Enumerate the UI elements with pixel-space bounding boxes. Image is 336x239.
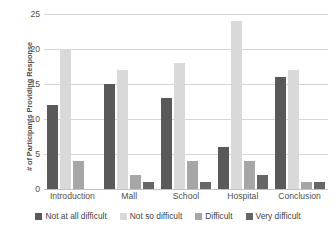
bar bbox=[104, 84, 115, 189]
bar-group bbox=[214, 14, 271, 189]
x-axis-tick-labels: IntroductionMallSchoolHospitalConclusion bbox=[44, 191, 328, 201]
bar bbox=[275, 77, 286, 189]
legend: Not at all difficultNot so difficultDiff… bbox=[0, 211, 336, 221]
y-axis-tick-label: 0 bbox=[14, 184, 40, 194]
x-axis-tick-label: Mall bbox=[101, 191, 158, 201]
x-axis-tick-label: Conclusion bbox=[271, 191, 328, 201]
gridline bbox=[44, 189, 328, 190]
y-axis-tick-label: 5 bbox=[14, 149, 40, 159]
bar-group bbox=[44, 14, 101, 189]
legend-item[interactable]: Not so difficult bbox=[120, 211, 182, 221]
bar bbox=[174, 63, 185, 189]
legend-swatch-icon bbox=[246, 213, 253, 220]
bar bbox=[161, 98, 172, 189]
bar bbox=[314, 182, 325, 189]
bar-group bbox=[101, 14, 158, 189]
bar bbox=[47, 105, 58, 189]
legend-item[interactable]: Difficult bbox=[195, 211, 232, 221]
legend-label: Very difficult bbox=[256, 211, 301, 221]
bar-chart: # of Participants Providing Response 051… bbox=[0, 0, 336, 239]
x-axis-tick-label: Introduction bbox=[44, 191, 101, 201]
bar-groups bbox=[44, 14, 328, 189]
y-axis-tick-label: 25 bbox=[14, 9, 40, 19]
legend-swatch-icon bbox=[195, 213, 202, 220]
legend-label: Difficult bbox=[205, 211, 232, 221]
bar bbox=[117, 70, 128, 189]
x-axis-tick-label: School bbox=[158, 191, 215, 201]
legend-label: Not at all difficult bbox=[45, 211, 106, 221]
bar bbox=[130, 175, 141, 189]
plot-area bbox=[44, 14, 328, 189]
y-axis-tick-label: 10 bbox=[14, 114, 40, 124]
legend-item[interactable]: Very difficult bbox=[246, 211, 301, 221]
bar bbox=[73, 161, 84, 189]
legend-item[interactable]: Not at all difficult bbox=[35, 211, 106, 221]
bar bbox=[231, 21, 242, 189]
bar bbox=[257, 175, 268, 189]
y-axis-tick-labels: 0510152025 bbox=[14, 14, 40, 189]
y-axis-tick-label: 20 bbox=[14, 44, 40, 54]
bar bbox=[143, 182, 154, 189]
bar-group bbox=[158, 14, 215, 189]
y-axis-tick-label: 15 bbox=[14, 79, 40, 89]
bar bbox=[218, 147, 229, 189]
bar bbox=[200, 182, 211, 189]
x-axis-tick-label: Hospital bbox=[214, 191, 271, 201]
legend-label: Not so difficult bbox=[130, 211, 182, 221]
bar bbox=[244, 161, 255, 189]
legend-swatch-icon bbox=[120, 213, 127, 220]
bar bbox=[288, 70, 299, 189]
bar bbox=[60, 49, 71, 189]
bar bbox=[187, 161, 198, 189]
bar bbox=[301, 182, 312, 189]
bar-group bbox=[271, 14, 328, 189]
legend-swatch-icon bbox=[35, 213, 42, 220]
